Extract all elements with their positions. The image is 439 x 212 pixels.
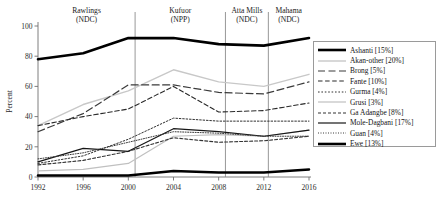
legend-label: Brong [5%] — [350, 66, 385, 75]
regime-leader: Mahama — [249, 6, 329, 15]
svg-text:2004: 2004 — [166, 183, 181, 192]
legend-item-fante[interactable]: Fante [10%] — [317, 76, 432, 86]
regime-party: (NDC) — [249, 15, 329, 24]
legend-item-guan[interactable]: Guan [4%] — [317, 128, 432, 138]
legend-item-ga-adangbe[interactable]: Ga Adangbe [8%] — [317, 107, 432, 117]
legend-label: Ewe [13%] — [350, 139, 383, 148]
legend-line-sample — [317, 56, 347, 66]
legend-item-brong[interactable]: Brong [5%] — [317, 66, 432, 76]
legend-line-sample — [317, 139, 347, 149]
legend-line-sample — [317, 66, 347, 76]
svg-text:80: 80 — [25, 52, 33, 61]
regime-label-rawlings: Rawlings(NDC) — [47, 6, 127, 25]
legend-label: Mole-Dagbani [17%] — [350, 118, 413, 127]
chart-legend: Ashanti [15%]Akan-other [20%]Brong [5%]F… — [313, 41, 436, 147]
svg-text:2008: 2008 — [211, 183, 226, 192]
legend-label: Fante [10%] — [350, 77, 387, 86]
svg-text:20: 20 — [25, 143, 33, 152]
svg-text:1996: 1996 — [76, 183, 91, 192]
legend-label: Grusi [3%] — [350, 98, 383, 107]
legend-line-sample — [317, 87, 347, 97]
legend-line-sample — [317, 118, 347, 128]
regime-leader: Rawlings — [47, 6, 127, 15]
legend-item-akan-other[interactable]: Akan-other [20%] — [317, 55, 432, 65]
legend-line-sample — [317, 76, 347, 86]
legend-line-sample — [317, 45, 347, 55]
chart-figure: 020406080100Percent199219962000200420082… — [0, 0, 439, 212]
svg-text:40: 40 — [25, 112, 33, 121]
legend-item-ashanti[interactable]: Ashanti [15%] — [317, 45, 432, 55]
legend-label: Guan [4%] — [350, 129, 383, 138]
legend-item-mole-dagbani[interactable]: Mole-Dagbani [17%] — [317, 118, 432, 128]
regime-label-mahama: Mahama(NDC) — [249, 6, 329, 25]
legend-label: Ashanti [15%] — [350, 46, 393, 55]
legend-item-ewe[interactable]: Ewe [13%] — [317, 139, 432, 149]
legend-line-sample — [317, 128, 347, 138]
svg-text:1992: 1992 — [31, 183, 46, 192]
legend-item-gurma[interactable]: Gurma [4%] — [317, 87, 432, 97]
svg-text:100: 100 — [21, 22, 33, 31]
svg-text:60: 60 — [25, 82, 33, 91]
legend-line-sample — [317, 108, 347, 118]
regime-party: (NDC) — [47, 15, 127, 24]
svg-text:Percent: Percent — [5, 89, 14, 112]
legend-label: Gurma [4%] — [350, 87, 387, 96]
legend-line-sample — [317, 97, 347, 107]
svg-text:2000: 2000 — [121, 183, 136, 192]
legend-label: Akan-other [20%] — [350, 56, 404, 65]
legend-label: Ga Adangbe [8%] — [350, 108, 403, 117]
legend-item-grusi[interactable]: Grusi [3%] — [317, 97, 432, 107]
svg-text:2012: 2012 — [256, 183, 271, 192]
svg-text:2016: 2016 — [302, 183, 317, 192]
svg-text:0: 0 — [29, 173, 33, 182]
